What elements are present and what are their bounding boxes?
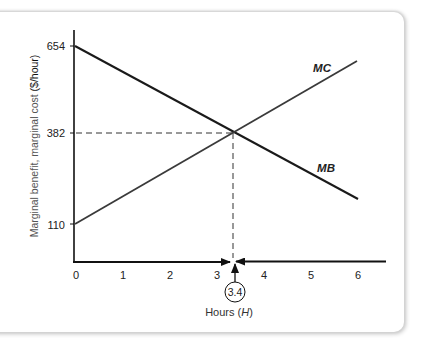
mc-label: MC [313,62,332,74]
y-axis-title: Marginal benefit, marginal cost ($/hour) [28,55,40,238]
x-tick-label-0: 0 [73,269,79,281]
mb-label: MB [317,162,335,174]
equilibrium-label: 3.4 [228,286,243,298]
x-tick-label-4: 4 [261,269,267,281]
y-tick-label-382: 382 [47,127,65,139]
chart-svg: 654 382 110 0 1 2 3 4 5 6 3.4 MC MB Hour… [0,0,424,344]
x-tick-label-1: 1 [120,269,126,281]
mc-curve [75,61,357,224]
x-axis-title: Hours (H) [205,306,253,318]
x-tick-label-3: 3 [214,269,220,281]
x-tick-label-2: 2 [167,269,173,281]
y-tick-label-110: 110 [47,219,65,231]
y-tick-label-654: 654 [47,40,65,52]
x-tick-label-6: 6 [355,269,361,281]
x-tick-label-5: 5 [308,269,314,281]
